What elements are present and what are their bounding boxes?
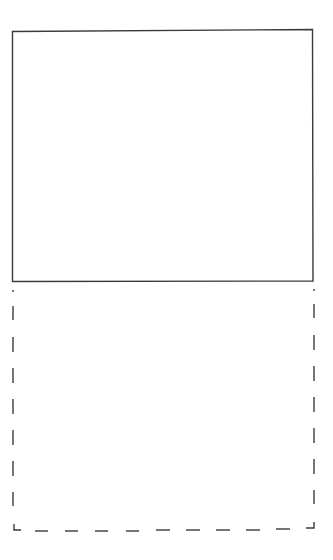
corner-bottom-left <box>14 524 21 530</box>
dashed-rectangle <box>13 289 314 531</box>
solid-rectangle <box>13 30 314 282</box>
corner-bottom-right <box>306 522 314 528</box>
